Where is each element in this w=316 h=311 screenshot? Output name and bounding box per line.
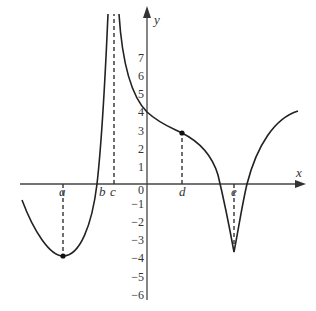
svg-text:−4: −4 <box>131 251 144 265</box>
svg-text:5: 5 <box>138 87 144 101</box>
x-point-labels: a b c d e <box>59 184 237 199</box>
svg-text:7: 7 <box>138 51 144 65</box>
svg-text:−6: −6 <box>131 288 144 302</box>
y-axis-arrow-icon <box>143 6 151 18</box>
svg-text:−1: −1 <box>131 197 144 211</box>
svg-text:3: 3 <box>138 124 144 138</box>
svg-text:6: 6 <box>138 69 144 83</box>
function-graph: x y 7 6 5 4 3 2 1 0 −1 −2 −3 −4 −5 −6 a … <box>0 0 316 311</box>
point-d <box>179 130 184 135</box>
curve-left-branch <box>22 14 108 256</box>
svg-text:d: d <box>179 184 186 199</box>
graph-svg: x y 7 6 5 4 3 2 1 0 −1 −2 −3 −4 −5 −6 a … <box>0 0 316 311</box>
svg-text:2: 2 <box>138 142 144 156</box>
svg-text:1: 1 <box>138 160 144 174</box>
svg-text:c: c <box>110 184 116 199</box>
svg-text:b: b <box>99 184 106 199</box>
svg-text:0: 0 <box>138 183 144 197</box>
y-axis-label: y <box>152 12 160 27</box>
svg-text:−2: −2 <box>131 215 144 229</box>
x-axis-label: x <box>295 165 302 180</box>
svg-text:−3: −3 <box>131 233 144 247</box>
x-axis-arrow-icon <box>295 180 306 188</box>
svg-text:−5: −5 <box>131 270 144 284</box>
curve-right-branch <box>119 14 298 252</box>
point-a <box>60 253 65 258</box>
